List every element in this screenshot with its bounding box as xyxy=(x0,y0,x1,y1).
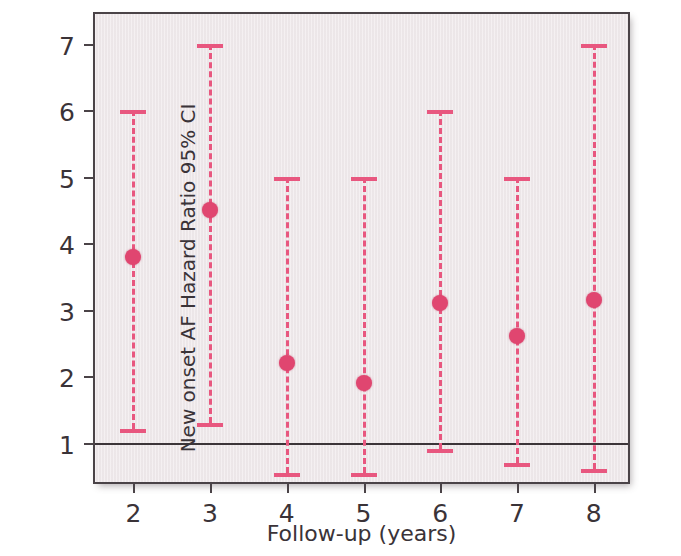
errorbar-stem-year-7 xyxy=(516,177,519,463)
data-point-year-8[interactable] xyxy=(586,292,602,308)
y-tick-label-6: 6 xyxy=(59,98,75,127)
errorbar-lower-cap-year-2 xyxy=(120,429,146,433)
errorbar-upper-cap-year-4 xyxy=(274,177,300,181)
paper-grain-texture xyxy=(95,14,628,482)
x-tick-6 xyxy=(440,482,442,493)
errorbar-stem-year-3 xyxy=(209,44,212,423)
data-point-year-4[interactable] xyxy=(279,355,295,371)
y-tick-5: 5 xyxy=(84,177,95,179)
y-tick-label-1: 1 xyxy=(59,430,75,459)
errorbar-lower-cap-year-7 xyxy=(504,463,530,467)
errorbar-stem-year-2 xyxy=(132,110,135,429)
y-tick-6: 6 xyxy=(84,110,95,112)
y-tick-7: 7 xyxy=(84,44,95,46)
errorbar-upper-cap-year-7 xyxy=(504,177,530,181)
y-tick-2: 2 xyxy=(84,376,95,378)
errorbar-upper-cap-year-2 xyxy=(120,110,146,114)
x-tick-7 xyxy=(517,482,519,493)
errorbar-lower-cap-year-5 xyxy=(351,473,377,477)
errorbar-upper-cap-year-3 xyxy=(197,44,223,48)
figure-container: 1234567 2345678 New onset AF Hazard Rati… xyxy=(0,0,681,556)
errorbar-lower-cap-year-6 xyxy=(427,449,453,453)
y-tick-label-5: 5 xyxy=(59,164,75,193)
y-tick-label-2: 2 xyxy=(59,364,75,393)
x-tick-8 xyxy=(594,482,596,493)
y-tick-label-4: 4 xyxy=(59,231,75,260)
data-point-year-2[interactable] xyxy=(125,249,141,265)
errorbar-upper-cap-year-5 xyxy=(351,177,377,181)
y-tick-label-7: 7 xyxy=(59,31,75,60)
errorbar-lower-cap-year-4 xyxy=(274,473,300,477)
data-point-year-3[interactable] xyxy=(202,202,218,218)
y-tick-3: 3 xyxy=(84,310,95,312)
y-tick-label-3: 3 xyxy=(59,297,75,326)
errorbar-lower-cap-year-8 xyxy=(581,469,607,473)
reference-line-hr-1 xyxy=(95,443,628,445)
y-tick-4: 4 xyxy=(84,243,95,245)
y-axis-title: New onset AF Hazard Ratio 95% CI xyxy=(176,104,200,453)
errorbar-stem-year-5 xyxy=(363,177,366,473)
errorbar-stem-year-8 xyxy=(593,44,596,469)
x-tick-4 xyxy=(287,482,289,493)
errorbar-stem-year-6 xyxy=(439,110,442,449)
errorbar-lower-cap-year-3 xyxy=(197,423,223,427)
data-point-year-6[interactable] xyxy=(432,295,448,311)
data-point-year-5[interactable] xyxy=(356,375,372,391)
errorbar-stem-year-4 xyxy=(286,177,289,473)
y-tick-1: 1 xyxy=(84,443,95,445)
x-tick-3 xyxy=(210,482,212,493)
x-tick-2 xyxy=(133,482,135,493)
x-tick-5 xyxy=(364,482,366,493)
errorbar-upper-cap-year-8 xyxy=(581,44,607,48)
plot-area: 1234567 2345678 xyxy=(93,12,630,484)
data-point-year-7[interactable] xyxy=(509,328,525,344)
errorbar-upper-cap-year-6 xyxy=(427,110,453,114)
x-axis-title: Follow-up (years) xyxy=(93,521,630,546)
